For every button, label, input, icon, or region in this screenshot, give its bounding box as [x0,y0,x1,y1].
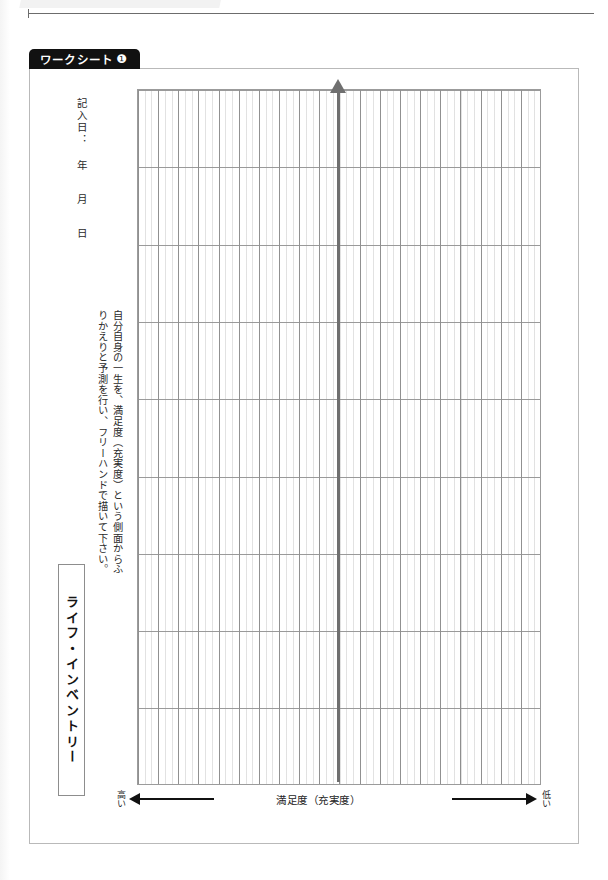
right-arrow-icon [452,793,537,805]
left-arrow-icon [129,793,214,805]
entry-date-month-unit: 月 [74,194,89,206]
running-header-tab-shape [19,0,225,8]
vertical-axis-arrow-shaft [337,92,340,782]
entry-date-year-unit: 年 [74,160,89,172]
axis-high-label: 高い [116,790,125,808]
entry-date-day-unit: 日 [74,228,89,240]
axis-high-group: 高い [116,790,214,808]
worksheet-page: Mental Health ワークシート ❶ 記入日： 年 月 日 りかえりと予… [0,0,608,880]
life-inventory-chart[interactable] [137,89,541,785]
worksheet-tab-label: ワークシート [40,51,113,67]
instruction-text: りかえりと予測を行い、フリーハンドで描いて下さい。 自分自身の一生を、満足度（充… [96,310,121,810]
worksheet-title: ライフ・インベントリー [62,595,81,766]
worksheet-tab: ワークシート ❶ [29,49,140,69]
entry-date-label: 記入日： [74,98,89,146]
axis-low-label: 低い [541,790,550,808]
page-edge-shadow [0,0,10,880]
instruction-line-2: りかえりと予測を行い、フリーハンドで描いて下さい。 [96,310,107,810]
axis-low-group: 低い [452,790,550,808]
entry-date-field[interactable]: 記入日： 年 月 日 [74,98,89,268]
worksheet-number-badge: ❶ [116,53,127,65]
running-header-rule [28,13,594,14]
running-header: Mental Health [0,0,608,26]
instruction-line-1: 自分自身の一生を、満足度（充実度）という側面からふ [111,310,122,810]
worksheet-title-box: ライフ・インベントリー [58,564,85,796]
axis-center-label: 満足度（充実度） [276,792,360,807]
vertical-axis-arrow-head-icon [330,79,346,93]
